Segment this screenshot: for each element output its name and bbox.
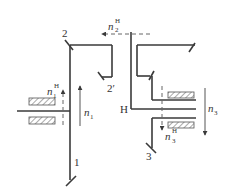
n3H-label: n H 3	[165, 127, 177, 145]
svg-text:H: H	[172, 127, 177, 135]
left-bearing-bottom	[29, 117, 55, 124]
svg-text:H: H	[54, 82, 59, 90]
n1H-label: n H 1	[47, 82, 59, 100]
svg-text:H: H	[115, 17, 120, 25]
left-bearing-top	[29, 98, 55, 105]
n1-label: n 1	[84, 106, 94, 121]
input-shaft	[17, 98, 70, 124]
gear-1-slant	[66, 176, 76, 186]
gear-2p-label: 2′	[107, 82, 115, 94]
svg-text:n: n	[165, 130, 171, 142]
svg-text:1: 1	[53, 92, 57, 100]
svg-text:2: 2	[115, 26, 119, 34]
right-bearing-top	[168, 92, 194, 98]
svg-text:1: 1	[90, 113, 94, 121]
n3-label: n 3	[208, 102, 218, 117]
gear-2p-slant	[98, 72, 104, 80]
gear-train-diagram: 2 2′ 1 3 H n H 1 n 1 n H 2 n H 3 n 3	[0, 0, 227, 189]
gear-1-label: 1	[74, 156, 80, 168]
svg-text:3: 3	[214, 109, 218, 117]
svg-text:n: n	[108, 20, 114, 32]
svg-text:3: 3	[172, 137, 176, 145]
gear-3-label: 3	[146, 150, 152, 162]
gear-2-label: 2	[62, 27, 68, 39]
carrier-label: H	[120, 103, 128, 115]
n2H-label: n H 2	[108, 17, 120, 34]
